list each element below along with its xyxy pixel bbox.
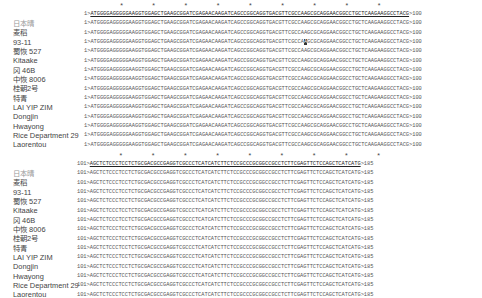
consensus-row: 101>AGCTCTCCCTCCTCTGCGACGCCGAGGTCGCCCTCA… — [77, 160, 373, 169]
sequence-row: 101>AGCTCTCCCTCCTCTGCGACGCCGAGGTCGCCCTCA… — [77, 281, 373, 290]
sequence-row: 1>ATGGGGAGGGGGAAGGTGGAGCTGAAGCGGATCGAGAA… — [84, 47, 422, 56]
sample-name: 麦稻 — [13, 178, 79, 187]
sample-name: 桂朝2号 — [13, 84, 79, 93]
sample-name: 中恢 8006 — [13, 225, 79, 234]
sample-name: 蜀恢 527 — [13, 47, 79, 56]
sequence-row: 101>AGCTCTCCCTCCTCTGCGACGCCGAGGTCGCCCTCA… — [77, 188, 373, 197]
sequence-row: 1>ATGGGGAGGGGGAAGGTGGAGCTGAAGCGGATCGAGAA… — [84, 38, 422, 47]
sequence-row: 101>AGCTCTCCCTCCTCTGCGACGCCGAGGTCGCCCTCA… — [77, 244, 373, 253]
sample-names: 日本晴麦稻93-11蜀恢 527Kitaake冈 46B中恢 8006桂朝2号特… — [13, 19, 79, 150]
sequence-row: 1>ATGGGGAGGGGGAAGGTGGAGCTGAAGCGGATCGAGAA… — [84, 19, 422, 28]
sequence-row: 1>ATGGGGAGGGGGAAGGTGGAGCTGAAGCGGATCGAGAA… — [84, 122, 422, 131]
consensus-row: 1>ATGGGGAGGGGGAAGGTGGAGCTGAAGCGGATCGAGAA… — [84, 10, 422, 19]
sequence-row: 1>ATGGGGAGGGGGAAGGTGGAGCTGAAGCGGATCGAGAA… — [84, 94, 422, 103]
sequence-row: 1>ATGGGGAGGGGGAAGGTGGAGCTGAAGCGGATCGAGAA… — [84, 66, 422, 75]
sample-name: Hwayong — [13, 272, 79, 281]
sequence-row: 101>AGCTCTCCCTCCTCTGCGACGCCGAGGTCGCCCTCA… — [77, 207, 373, 216]
sample-name: 日本晴 — [13, 169, 79, 178]
sequence-row: 1>ATGGGGAGGGGGAAGGTGGAGCTGAAGCGGATCGAGAA… — [84, 113, 422, 122]
sequence-row: 101>AGCTCTCCCTCCTCTGCGACGCCGAGGTCGCCCTCA… — [77, 253, 373, 262]
sample-name: Rice Department 29 — [13, 131, 79, 140]
sample-name: 93-11 — [13, 38, 79, 47]
sample-name: 冈 46B — [13, 216, 79, 225]
sample-name: Hwayong — [13, 122, 79, 131]
sample-name: LAI YIP ZIM — [13, 253, 79, 262]
sequence-rows: 101>AGCTCTCCCTCCTCTGCGACGCCGAGGTCGCCCTCA… — [77, 160, 373, 298]
sample-name: LAI YIP ZIM — [13, 103, 79, 112]
sample-name: 中恢 8006 — [13, 75, 79, 84]
sample-name: 桂朝2号 — [13, 234, 79, 243]
sample-name: Dongjin — [13, 112, 79, 121]
sequence-row: 101>AGCTCTCCCTCCTCTGCGACGCCGAGGTCGCCCTCA… — [77, 169, 373, 178]
sequence-row: 101>AGCTCTCCCTCCTCTGCGACGCCGAGGTCGCCCTCA… — [77, 263, 373, 272]
sequence-row: 101>AGCTCTCCCTCCTCTGCGACGCCGAGGTCGCCCTCA… — [77, 272, 373, 281]
sample-name: 麦稻 — [13, 28, 79, 37]
sample-name: Laorentou — [13, 140, 79, 149]
sample-name: 日本晴 — [13, 19, 79, 28]
sample-name: Kitaake — [13, 56, 79, 65]
sequence-row: 1>ATGGGGAGGGGGAAGGTGGAGCTGAAGCGGATCGAGAA… — [84, 131, 422, 140]
sequence-row: 1>ATGGGGAGGGGGAAGGTGGAGCTGAAGCGGATCGAGAA… — [84, 141, 422, 150]
sequence-row: 1>ATGGGGAGGGGGAAGGTGGAGCTGAAGCGGATCGAGAA… — [84, 57, 422, 66]
sequence-row: 101>AGCTCTCCCTCCTCTGCGACGCCGAGGTCGCCCTCA… — [77, 216, 373, 225]
sample-name: Rice Department 29 — [13, 281, 79, 290]
sequence-row: 101>AGCTCTCCCTCCTCTGCGACGCCGAGGTCGCCCTCA… — [77, 179, 373, 188]
sequence-rows: 1>ATGGGGAGGGGGAAGGTGGAGCTGAAGCGGATCGAGAA… — [84, 10, 422, 150]
sample-name: 冈 46B — [13, 66, 79, 75]
sequence-row: 101>AGCTCTCCCTCCTCTGCGACGCCGAGGTCGCCCTCA… — [77, 235, 373, 244]
sample-name: Dongjin — [13, 262, 79, 271]
sample-name: 特青 — [13, 244, 79, 253]
sequence-row: 101>AGCTCTCCCTCCTCTGCGACGCCGAGGTCGCCCTCA… — [77, 197, 373, 206]
sequence-row: 1>ATGGGGAGGGGGAAGGTGGAGCTGAAGCGGATCGAGAA… — [84, 75, 422, 84]
sequence-row: 1>ATGGGGAGGGGGAAGGTGGAGCTGAAGCGGATCGAGAA… — [84, 29, 422, 38]
sample-name: 特青 — [13, 94, 79, 103]
sequence-row: 1>ATGGGGAGGGGGAAGGTGGAGCTGAAGCGGATCGAGAA… — [84, 85, 422, 94]
sequence-row: 1>ATGGGGAGGGGGAAGGTGGAGCTGAAGCGGATCGAGAA… — [84, 103, 422, 112]
sequence-row: 101>AGCTCTCCCTCCTCTGCGACGCCGAGGTCGCCCTCA… — [77, 225, 373, 234]
sample-name: 93-11 — [13, 188, 79, 197]
sample-name: Laorentou — [13, 290, 79, 298]
sample-name: Kitaake — [13, 206, 79, 215]
sequence-row: 101>AGCTCTCCCTCCTCTGCGACGCCGAGGTCGCCCTCA… — [77, 291, 373, 298]
sample-name: 蜀恢 527 — [13, 197, 79, 206]
sample-names: 日本晴麦稻93-11蜀恢 527Kitaake冈 46B中恢 8006桂朝2号特… — [13, 169, 79, 298]
